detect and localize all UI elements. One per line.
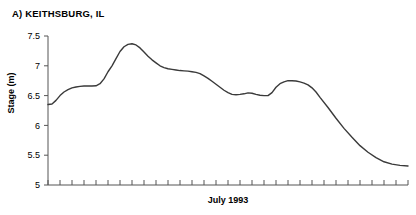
chart-figure: A) KEITHSBURG, IL Stage (m) July 1993 55…	[0, 0, 416, 215]
data-series-line	[48, 44, 408, 166]
y-axis-ticks: 55.566.577.5	[27, 31, 48, 190]
x-axis-ticks	[48, 180, 408, 185]
y-tick-label: 7.5	[27, 31, 40, 41]
y-tick-label: 6.5	[27, 91, 40, 101]
y-tick-label: 6	[35, 121, 40, 131]
line-chart-plot: 55.566.577.5	[0, 0, 416, 215]
y-tick-label: 5.5	[27, 150, 40, 160]
y-tick-label: 5	[35, 180, 40, 190]
y-tick-label: 7	[35, 61, 40, 71]
